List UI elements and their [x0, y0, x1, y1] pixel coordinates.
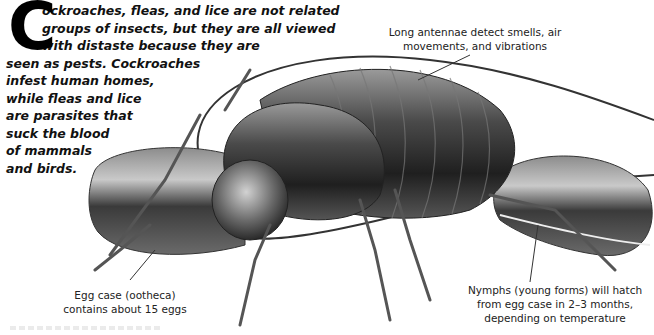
- antennae-caption: Long antennae detect smells, air movemen…: [380, 25, 570, 53]
- intro-dropcap: C: [8, 0, 56, 60]
- intro-line: suck the blood: [6, 125, 256, 143]
- intro-line: are parasites that: [6, 107, 256, 125]
- egg-case-right: [494, 156, 653, 256]
- intro-line: and birds.: [6, 160, 256, 178]
- intro-line: of mammals: [6, 142, 256, 160]
- egg-case-caption: Egg case (ootheca) contains about 15 egg…: [55, 288, 195, 316]
- intro-line: infest human homes,: [6, 72, 256, 90]
- intro-line: while fleas and lice: [6, 90, 256, 108]
- leader-line-egg-case: [130, 250, 155, 280]
- nymphs-caption: Nymphs (young forms) will hatch from egg…: [455, 283, 654, 325]
